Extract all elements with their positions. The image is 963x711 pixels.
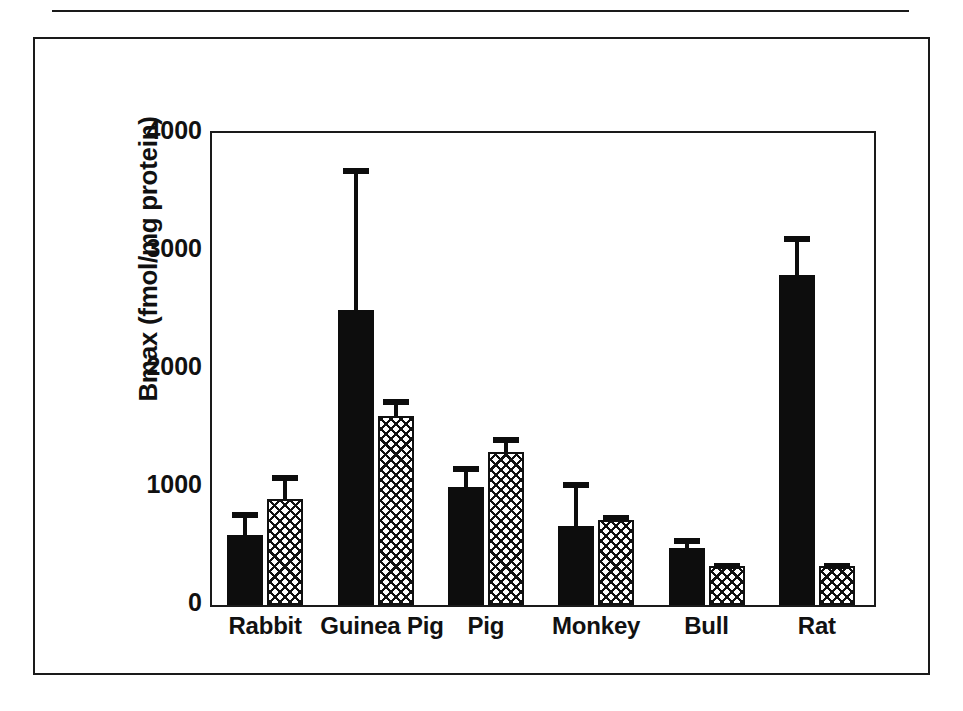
error-bar-cap: [493, 437, 519, 443]
plot-area: [212, 133, 874, 605]
x-tick-label-bull: Bull: [651, 612, 761, 640]
bar-pig-solid-black: [448, 487, 484, 605]
error-bar-cap: [343, 168, 369, 174]
y-tick-label: 2000: [92, 354, 202, 379]
figure-box: Bmax (fmol/mg protein) 40003000200010000…: [33, 37, 930, 675]
error-bar-monkey-solid-black: [574, 482, 578, 526]
error-bar-cap: [603, 515, 629, 521]
error-bar-cap: [674, 538, 700, 544]
bar-bull-solid-black: [669, 548, 705, 605]
x-tick-label-rabbit: Rabbit: [210, 612, 320, 640]
bar-chart: Bmax (fmol/mg protein) 40003000200010000…: [35, 39, 932, 677]
error-bar-cap: [563, 482, 589, 488]
x-tick-label-monkey: Monkey: [541, 612, 651, 640]
y-tick-label: 3000: [92, 236, 202, 261]
error-bar-guinea-pig-solid-black: [354, 168, 358, 310]
y-axis-tick-labels: 40003000200010000: [90, 131, 202, 603]
y-tick-label: 1000: [92, 472, 202, 497]
bar-rabbit-solid-black: [227, 535, 263, 605]
bar-pig-cross-hatched: [488, 452, 524, 605]
horizontal-rule: [52, 10, 909, 12]
x-tick-label-guinea-pig: Guinea Pig: [320, 612, 430, 640]
error-bar-cap: [784, 236, 810, 242]
bar-guinea-pig-cross-hatched: [378, 416, 414, 605]
x-tick-label-rat: Rat: [762, 612, 872, 640]
bar-rat-cross-hatched: [819, 566, 855, 605]
x-axis-tick-labels: RabbitGuinea PigPigMonkeyBullRat: [210, 612, 872, 652]
bar-guinea-pig-solid-black: [338, 310, 374, 605]
bar-rat-solid-black: [779, 275, 815, 605]
clipped-caption-text: [52, 0, 909, 3]
y-tick-label: 0: [92, 590, 202, 615]
error-bar-cap: [824, 563, 850, 569]
error-bar-cap: [272, 475, 298, 481]
error-bar-cap: [232, 512, 258, 518]
error-bar-cap: [383, 399, 409, 405]
bar-rabbit-cross-hatched: [267, 499, 303, 605]
x-tick-label-pig: Pig: [431, 612, 541, 640]
y-tick-label: 4000: [92, 118, 202, 143]
bar-monkey-solid-black: [558, 526, 594, 605]
plot-frame: [210, 131, 876, 607]
error-bar-cap: [714, 563, 740, 569]
bar-monkey-cross-hatched: [598, 520, 634, 605]
error-bar-cap: [453, 466, 479, 472]
bar-bull-cross-hatched: [709, 566, 745, 605]
